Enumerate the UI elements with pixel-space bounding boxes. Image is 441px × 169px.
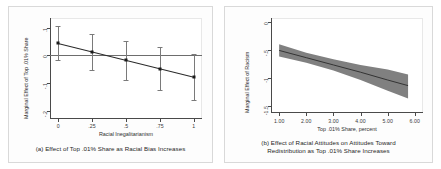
- panel-b-x-tick: [279, 113, 280, 116]
- panel-b-estimate-line: [279, 50, 408, 85]
- panel-a-x-tick-label: .75: [156, 123, 164, 129]
- panel-a-x-axis-title: Racial Inegalitarianism: [50, 131, 202, 137]
- panel-b-x-tick-label: 5.00: [382, 118, 393, 124]
- panel-b-x-tick: [333, 113, 334, 116]
- panel-b-x-tick-label: 6.00: [410, 118, 421, 124]
- panel-a-error-cap-top: [124, 41, 129, 42]
- panel-a-error-cap-top: [90, 34, 95, 35]
- panel-a-x-tick: [58, 119, 59, 122]
- panel-b-caption-line-2: Redistribution as Top .01% Share Increas…: [229, 147, 428, 156]
- panel-a-x-tick-label: 1: [192, 123, 195, 129]
- panel-b-x-tick: [388, 113, 389, 116]
- panel-b-x-tick-label: 4.00: [355, 118, 366, 124]
- panel-a-x-tick-label: 0: [57, 123, 60, 129]
- panel-a-x-tick: [92, 119, 93, 122]
- panel-a-x-tick-label: .25: [88, 123, 96, 129]
- panel-a: Marginal Effect of Top .01% Share 0.25.5…: [8, 6, 213, 163]
- panel-a-error-cap-top: [157, 47, 162, 48]
- panel-b-x-tick-label: 2.00: [301, 118, 312, 124]
- panel-b-x-tick-label: 3.00: [328, 118, 339, 124]
- panel-b-x-tick: [361, 113, 362, 116]
- panel-b-y-tick-label: -.5: [263, 50, 269, 56]
- panel-b-x-tick-label: 1.00: [274, 118, 285, 124]
- panel-a-y-tick-label: .1: [42, 28, 48, 33]
- panel-a-point-marker: [57, 42, 60, 45]
- panel-a-point-marker: [158, 67, 161, 70]
- panel-b-y-axis-title: Marginal Effect of Racism: [244, 52, 250, 113]
- panel-b: Marginal Effect of Racism 1.002.003.004.…: [224, 6, 433, 163]
- panel-a-point-marker: [192, 76, 195, 79]
- panel-a-y-tick-label: 0: [42, 55, 48, 58]
- panel-a-point-marker: [91, 51, 94, 54]
- panel-b-x-tick: [415, 113, 416, 116]
- panel-b-confidence-band: [271, 18, 423, 113]
- panel-a-caption: (a) Effect of Top .01% Share as Racial B…: [13, 145, 208, 154]
- panel-a-error-cap-bottom: [124, 80, 129, 81]
- panel-a-error-cap-bottom: [157, 90, 162, 91]
- panel-a-x-tick: [160, 119, 161, 122]
- panel-a-error-cap-bottom: [191, 100, 196, 101]
- panel-a-y-tick-label: -.1: [42, 83, 48, 89]
- panel-a-x-tick: [126, 119, 127, 122]
- panel-a-error-cap-top: [56, 26, 61, 27]
- figure-container: Marginal Effect of Top .01% Share 0.25.5…: [0, 0, 441, 169]
- panel-a-x-tick: [194, 119, 195, 122]
- panel-a-point-marker: [125, 59, 128, 62]
- panel-a-frame-right: [201, 18, 202, 119]
- panel-a-x-tick-label: .5: [124, 123, 129, 129]
- panel-a-error-cap-bottom: [56, 60, 61, 61]
- panel-a-y-axis-title: Marginal Effect of Top .01% Share: [23, 37, 29, 119]
- panel-b-plot-area: [271, 18, 423, 113]
- panel-a-plot-area: [50, 18, 202, 119]
- panel-b-y-tick-label: 0: [263, 22, 269, 25]
- panel-a-y-axis: [50, 18, 51, 119]
- panel-b-y-tick-label: -1.5: [263, 106, 269, 115]
- panel-b-ci-polygon: [279, 44, 408, 98]
- panel-a-y-tick-label: -.2: [42, 111, 48, 117]
- panel-b-x-tick: [306, 113, 307, 116]
- panel-a-error-cap-bottom: [90, 70, 95, 71]
- panel-a-error-cap-top: [191, 54, 196, 55]
- panel-a-frame-top: [50, 18, 202, 19]
- panel-b-y-tick-label: -1: [263, 78, 269, 83]
- panel-b-x-axis-title: Top .01% Share, percent: [271, 126, 423, 132]
